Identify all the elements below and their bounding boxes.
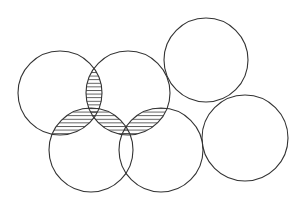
circle-c6 [202, 95, 288, 181]
circle-outlines [18, 18, 288, 192]
circle-c5 [119, 108, 203, 192]
circles-diagram [0, 0, 303, 210]
circle-c3 [164, 18, 248, 102]
hatched-regions [49, 51, 203, 192]
